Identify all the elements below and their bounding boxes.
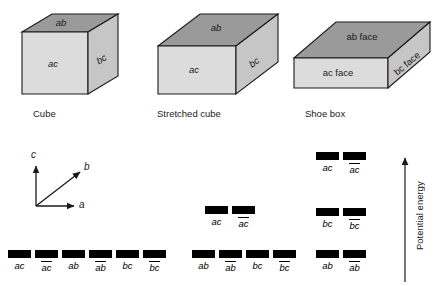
level-bar <box>343 250 366 258</box>
cube-shape: ab ac bc <box>14 10 126 98</box>
level-bar <box>62 250 85 258</box>
potential-energy-label: Potential energy <box>414 150 425 282</box>
level-bar <box>273 250 296 258</box>
energy-level: ac <box>33 250 60 273</box>
level-bar <box>316 208 339 216</box>
level-row: ab ab <box>314 250 368 273</box>
level-bar <box>232 206 255 214</box>
cube-caption: Cube <box>33 108 56 119</box>
level-bar <box>246 250 269 258</box>
level-row: ac ac <box>314 152 368 175</box>
level-bar <box>8 250 31 258</box>
cube-level-diagram: ac ac ab ab bc bc <box>6 250 176 280</box>
axis-triad: c b a <box>22 150 114 218</box>
energy-level: ab <box>87 250 114 273</box>
energy-level: bc <box>341 208 368 231</box>
shoe-box-shape: ab face ac face bc face <box>288 14 436 98</box>
level-bar <box>116 250 139 258</box>
level-label: bc <box>279 261 289 273</box>
shoe-box-caption: Shoe box <box>305 108 345 119</box>
level-label: ab <box>95 261 106 273</box>
level-bar <box>35 250 58 258</box>
level-label: ab <box>322 260 333 271</box>
energy-level: ac <box>6 250 33 273</box>
shoe-box-face-label-top: ab face <box>346 31 377 42</box>
shoe-box-face-label-front: ac face <box>323 67 354 78</box>
energy-level: bc <box>314 208 341 231</box>
stretched-cube-face-label-top: ab <box>211 22 222 33</box>
level-bar <box>316 152 339 160</box>
level-label: bc <box>322 218 332 229</box>
level-bar <box>343 152 366 160</box>
stretched-cube-face-label-front: ac <box>189 64 199 75</box>
energy-level: bc <box>244 250 271 273</box>
level-bar <box>89 250 112 258</box>
energy-level: ab <box>341 250 368 273</box>
level-row: ac ac <box>203 206 257 229</box>
energy-level: ab <box>217 250 244 273</box>
stretched-cube-level-diagram: ac ac ab ab bc bc <box>190 206 310 281</box>
level-label: bc <box>349 219 359 231</box>
level-bar <box>143 250 166 258</box>
energy-level: bc <box>114 250 141 273</box>
stretched-cube-caption: Stretched cube <box>157 108 221 119</box>
axis-label-c: c <box>31 149 36 160</box>
energy-level: ac <box>314 152 341 175</box>
level-label: ab <box>225 261 236 273</box>
axis-label-a: a <box>79 199 85 210</box>
shoe-box-level-diagram: ac ac bc bc ab <box>314 152 384 280</box>
level-label: bc <box>122 260 132 271</box>
energy-level: ab <box>314 250 341 273</box>
level-label: ac <box>238 217 248 229</box>
level-row: bc bc <box>314 208 368 231</box>
level-bar <box>192 250 215 258</box>
cube-face-label-front: ac <box>48 58 58 69</box>
energy-level: bc <box>271 250 298 273</box>
stretched-cube-shape: ab ac bc <box>150 10 286 98</box>
level-label: ac <box>14 260 24 271</box>
level-label: ab <box>68 260 79 271</box>
level-label: ab <box>198 260 209 271</box>
axis-label-b: b <box>84 161 90 172</box>
potential-energy-axis: Potential energy <box>398 148 444 284</box>
cube-face-label-top: ab <box>56 17 67 28</box>
level-bar <box>205 206 228 214</box>
level-label: bc <box>252 260 262 271</box>
level-row: ab ab bc bc <box>190 250 298 273</box>
level-label: ac <box>349 163 359 175</box>
energy-level: ac <box>203 206 230 229</box>
energy-level: ab <box>60 250 87 273</box>
energy-level: ab <box>190 250 217 273</box>
level-label: ac <box>322 162 332 173</box>
energy-level: bc <box>141 250 168 273</box>
level-bar <box>316 250 339 258</box>
level-label: ab <box>349 261 360 273</box>
level-label: bc <box>149 261 159 273</box>
energy-level: ac <box>341 152 368 175</box>
level-bar <box>219 250 242 258</box>
figure-canvas: ab ac bc Cube ab ac bc Stretched cube ab… <box>0 0 445 286</box>
level-bar <box>343 208 366 216</box>
level-label: ac <box>211 216 221 227</box>
level-label: ac <box>41 261 51 273</box>
level-row: ac ac ab ab bc bc <box>6 250 168 273</box>
energy-level: ac <box>230 206 257 229</box>
